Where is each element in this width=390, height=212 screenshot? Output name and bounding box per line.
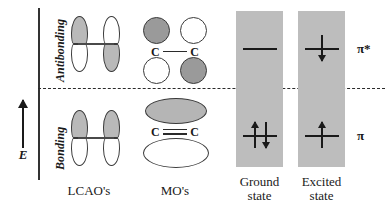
p-lobe-bottom [103, 44, 120, 72]
ground-bonding-electron-spin-up [254, 122, 256, 148]
mo-antibonding-cc-bond-group: C C [151, 45, 199, 58]
ground-bonding-level [243, 135, 277, 137]
excited-bonding-electron-spin-up [321, 122, 323, 148]
carbon-atom-label-left: C [151, 46, 160, 58]
cc-single-bond-line [163, 51, 188, 53]
p-lobe-bottom [103, 138, 120, 166]
lcao-antibonding-bond-line [78, 43, 114, 45]
mo-antibonding-lobe-top-right [180, 17, 207, 44]
orbital-symbol-pi-star: π* [357, 42, 371, 55]
p-lobe-top [103, 16, 120, 44]
mo-bonding-cc-bond-group: C C [151, 126, 199, 137]
cc-double-bond-line [163, 129, 188, 135]
energy-up-arrow-icon [22, 100, 24, 148]
p-lobe-top [71, 16, 88, 44]
energy-axis-label: E [12, 148, 34, 161]
excited-antibonding-electron-spin-down [321, 35, 323, 61]
orbital-symbol-pi: π [357, 129, 364, 142]
carbon-atom-label-right: C [190, 46, 199, 58]
column-caption-ground-state: Ground state [227, 175, 292, 203]
caption-line-2: state [289, 189, 354, 203]
p-lobe-bottom [71, 44, 88, 72]
p-lobe-top [103, 110, 120, 138]
lcao-bonding-bond-line [78, 137, 114, 139]
p-lobe-top [71, 110, 88, 138]
ground-bonding-electron-spin-down [265, 122, 267, 148]
carbon-atom-label-right: C [190, 126, 199, 138]
column-caption-lcao: LCAO's [54, 184, 124, 198]
caption-line-1: Ground [227, 175, 292, 189]
caption-line-2: state [227, 189, 292, 203]
vertical-axis-rule [38, 8, 40, 180]
column-caption-excited-state: Excited state [289, 175, 354, 203]
ground-state-box [236, 11, 283, 167]
mo-antibonding-lobe-top-left [143, 17, 170, 44]
p-lobe-bottom [71, 138, 88, 166]
caption-line-1: Excited [289, 175, 354, 189]
mo-antibonding-lobe-bottom-right [180, 57, 207, 84]
mo-diagram-canvas: E Antibonding Bonding C C C [0, 0, 390, 212]
mo-antibonding-lobe-bottom-left [143, 57, 170, 84]
mo-bonding-lobe-bottom [143, 138, 209, 168]
mo-bonding-lobe-top [145, 98, 207, 124]
column-caption-mo: MO's [140, 184, 210, 198]
carbon-atom-label-left: C [151, 126, 160, 138]
ground-antibonding-level [243, 48, 277, 50]
